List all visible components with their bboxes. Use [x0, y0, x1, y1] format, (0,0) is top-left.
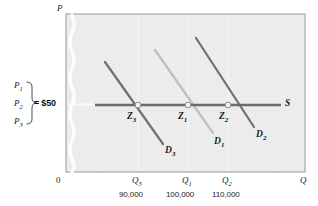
price-level-value: = $50: [34, 99, 56, 108]
price-subscript-p1: 1: [20, 85, 23, 92]
demand-curve-label-d2: D2: [256, 130, 266, 142]
price-subscript-p3: 3: [20, 121, 23, 128]
x-tick-value-q2: 110,000: [212, 191, 240, 199]
demand-d2-subscript: 2: [263, 134, 267, 142]
price-subscript-p2: 2: [20, 103, 23, 110]
demand-d2-letter: D: [256, 129, 263, 139]
demand-d3-subscript: 3: [172, 150, 176, 158]
demand-curve-label-d3: D3: [165, 146, 175, 158]
x-tick-label-q1: Q1: [182, 176, 192, 187]
price-label-p2: P2: [14, 99, 23, 110]
demand-curve-label-d1: D1: [214, 137, 224, 149]
x-tick-label-q3: Q3: [132, 176, 142, 187]
y-axis-label: P: [57, 4, 63, 13]
z1-subscript: 1: [184, 116, 188, 124]
demand-d1-letter: D: [214, 136, 221, 146]
equilibrium-label-z1: Z1: [178, 112, 187, 124]
equilibrium-point-z1: [185, 102, 191, 108]
x-tick-label-q2: Q2: [222, 176, 232, 187]
equilibrium-label-z3: Z3: [127, 112, 136, 124]
equilibrium-point-z3: [135, 102, 141, 108]
price-label-p1: P1: [14, 81, 23, 92]
origin-label: 0: [56, 176, 61, 185]
z3-subscript: 3: [133, 116, 137, 124]
x-tick-value-q3: 90,000: [119, 191, 143, 199]
x-tick-value-q1: 100,000: [166, 191, 194, 199]
q2-subscript: 2: [229, 180, 232, 187]
z2-subscript: 2: [225, 116, 229, 124]
supply-curve-label: S: [285, 99, 290, 109]
equilibrium-label-z2: Z2: [219, 112, 228, 124]
q3-subscript: 3: [139, 180, 142, 187]
x-axis-label: Q: [300, 176, 307, 185]
price-label-p3: P3: [14, 117, 23, 128]
equilibrium-point-z2: [225, 102, 231, 108]
q1-subscript: 1: [189, 180, 192, 187]
demand-d1-subscript: 1: [221, 141, 225, 149]
demand-d3-letter: D: [165, 145, 172, 155]
supply-demand-figure: P Q 0 P1 P2 P3 = $50 S D3 D1 D2 Z3 Z1 Z2…: [0, 0, 318, 206]
